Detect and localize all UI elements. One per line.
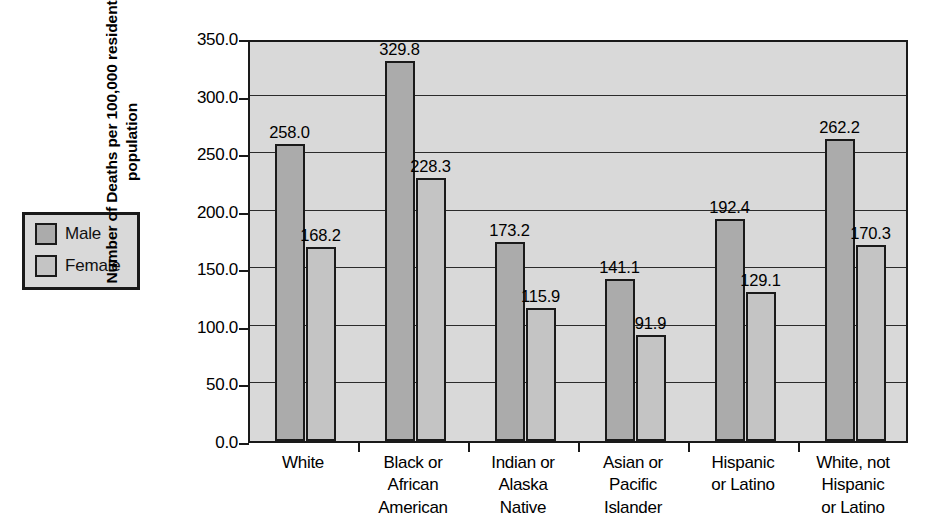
bar-value-label: 258.0 xyxy=(254,123,326,142)
y-axis-tick-labels: 0.050.0100.0150.0200.0250.0300.0350.0 xyxy=(176,40,238,443)
y-axis-tick-label: 300.0 xyxy=(176,88,238,108)
x-axis-separator xyxy=(468,443,470,452)
gridline xyxy=(250,325,906,326)
bar-male xyxy=(605,279,635,441)
x-axis-category-label: Black orAfricanAmerican xyxy=(358,452,468,518)
x-axis-separator xyxy=(358,443,360,452)
legend-swatch-male xyxy=(35,223,57,245)
gridline xyxy=(250,382,906,383)
bar-value-label: 173.2 xyxy=(474,221,546,240)
y-axis-tick-label: 150.0 xyxy=(176,260,238,280)
bar-female xyxy=(636,335,666,441)
x-axis-category-line: Alaska xyxy=(468,474,578,496)
plot-area: 258.0168.2329.8228.3173.2115.9141.191.91… xyxy=(248,40,908,443)
x-axis-category-line: Black or xyxy=(358,452,468,474)
bar-value-label: 228.3 xyxy=(395,157,467,176)
y-axis-tick-label: 0.0 xyxy=(176,433,238,453)
x-axis-category-line: White xyxy=(248,452,358,474)
bar-female xyxy=(746,292,776,441)
x-axis-category-line: Hispanic xyxy=(798,474,908,496)
y-axis-tick-label: 50.0 xyxy=(176,375,238,395)
y-axis-tick-label: 250.0 xyxy=(176,145,238,165)
bar-value-label: 192.4 xyxy=(694,198,766,217)
gridline xyxy=(250,152,906,153)
x-axis-category-label: White, notHispanicor Latino xyxy=(798,452,908,518)
x-axis-category-line: or Latino xyxy=(688,474,798,496)
y-axis-title-line-2: population xyxy=(122,103,142,181)
y-axis-title-line-1: Number of Deaths per 100,000 resident xyxy=(102,0,122,283)
x-axis-separator xyxy=(798,443,800,452)
bar-male xyxy=(275,144,305,441)
bar-value-label: 262.2 xyxy=(804,118,876,137)
bar-male xyxy=(825,139,855,441)
bar-value-label: 170.3 xyxy=(835,224,907,243)
bar-female xyxy=(526,308,556,441)
bar-value-label: 91.9 xyxy=(615,314,687,333)
bar-male xyxy=(495,242,525,441)
bar-value-label: 329.8 xyxy=(364,40,436,59)
bar-chart-figure: Male Female Number of Deaths per 100,000… xyxy=(0,0,932,523)
y-axis-tick-label: 350.0 xyxy=(176,30,238,50)
bar-value-label: 129.1 xyxy=(725,271,797,290)
gridline xyxy=(250,210,906,211)
bar-male xyxy=(715,219,745,441)
x-axis-category-label: White xyxy=(248,452,358,518)
x-axis-category-line: Native xyxy=(468,497,578,519)
legend-item-male: Male xyxy=(35,223,101,245)
bar-value-label: 115.9 xyxy=(505,287,577,306)
y-axis-tick-label: 100.0 xyxy=(176,318,238,338)
bar-female xyxy=(856,245,886,441)
y-axis-tick-label: 200.0 xyxy=(176,203,238,223)
x-axis-category-line: Pacific xyxy=(578,474,688,496)
x-axis-category-line: Indian or xyxy=(468,452,578,474)
legend-swatch-female xyxy=(35,255,57,277)
x-axis-category-line: Islander xyxy=(578,497,688,519)
gridline xyxy=(250,267,906,268)
gridline xyxy=(250,95,906,96)
bar-female xyxy=(416,178,446,441)
x-axis-category-line: American xyxy=(358,497,468,519)
bar-value-label: 141.1 xyxy=(584,258,656,277)
x-axis-category-line: or Latino xyxy=(798,497,908,519)
bar-value-label: 168.2 xyxy=(285,226,357,245)
x-axis-category-label: Hispanicor Latino xyxy=(688,452,798,518)
x-axis-category-labels: WhiteBlack orAfricanAmericanIndian orAla… xyxy=(248,452,908,518)
x-axis-category-line: Asian or xyxy=(578,452,688,474)
x-axis-category-line: White, not xyxy=(798,452,908,474)
bar-female xyxy=(306,247,336,441)
x-axis-category-line: African xyxy=(358,474,468,496)
x-axis-category-label: Asian orPacificIslander xyxy=(578,452,688,518)
y-axis-title: Number of Deaths per 100,000 resident po… xyxy=(100,0,144,287)
bar-male xyxy=(385,61,415,441)
x-axis-category-label: Indian orAlaskaNative xyxy=(468,452,578,518)
x-axis-category-line: Hispanic xyxy=(688,452,798,474)
x-axis-separator xyxy=(688,443,690,452)
x-axis-separator xyxy=(578,443,580,452)
legend-label-male: Male xyxy=(65,224,101,244)
